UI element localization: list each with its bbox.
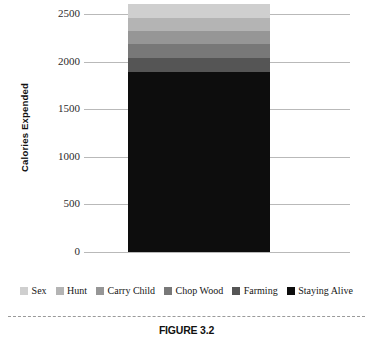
bar-segment-chop-wood[interactable] [128,44,270,57]
bar-segment-carry-child[interactable] [128,31,270,44]
legend-swatch-icon [232,287,240,295]
legend-label: Hunt [67,286,87,296]
legend-item-hunt[interactable]: Hunt [56,286,88,296]
legend-item-sex[interactable]: Sex [20,286,47,296]
legend-label: Staying Alive [298,286,353,296]
y-tick-label: 1000 [28,151,80,162]
stacked-bar[interactable] [128,0,270,256]
bar-segment-farming[interactable] [128,58,270,72]
legend-label: Sex [32,286,47,296]
legend-item-staying-alive[interactable]: Staying Alive [287,286,353,296]
bar-segment-sex[interactable] [128,4,270,18]
legend-item-carry-child[interactable]: Carry Child [96,286,155,296]
legend-swatch-icon [56,287,64,295]
legend-item-farming[interactable]: Farming [232,286,277,296]
y-tick-label: 0 [28,246,80,257]
legend-swatch-icon [20,287,28,295]
y-tick-label: 1500 [28,103,80,114]
chart-legend: SexHuntCarry ChildChop WoodFarmingStayin… [0,281,373,301]
figure-caption: FIGURE 3.2 [0,324,373,336]
y-tick-label: 2000 [28,56,80,67]
legend-item-chop-wood[interactable]: Chop Wood [164,286,223,296]
legend-label: Chop Wood [176,286,224,296]
caption-divider [8,316,365,317]
bar-segment-hunt[interactable] [128,18,270,31]
legend-swatch-icon [287,287,295,295]
y-tick-label: 500 [28,198,80,209]
bar-segment-staying-alive[interactable] [128,72,270,252]
legend-swatch-icon [164,287,172,295]
y-tick-label: 2500 [28,8,80,19]
legend-swatch-icon [96,287,104,295]
plot-area [84,0,350,256]
legend-label: Farming [244,286,278,296]
legend-label: Carry Child [108,286,156,296]
figure-container: Calories Expended 05001000150020002500 S… [0,0,373,346]
y-axis-tick-labels: 05001000150020002500 [24,0,80,256]
